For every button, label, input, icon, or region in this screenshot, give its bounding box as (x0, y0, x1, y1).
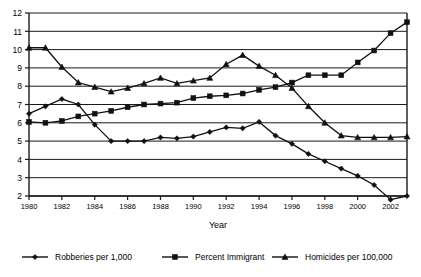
data-point (59, 119, 64, 124)
data-point (355, 60, 360, 65)
data-point (191, 134, 196, 139)
x-axis-tick-label: 1994 (251, 202, 268, 211)
data-point (26, 111, 31, 116)
series-0 (26, 96, 409, 202)
legend-item-2[interactable]: Homicides per 100,000 (272, 252, 393, 262)
data-point (240, 91, 245, 96)
x-axis-tick-label: 2000 (349, 202, 366, 211)
legend-label: Homicides per 100,000 (305, 252, 393, 262)
chart-container: 2345678910111219801982198419861988199019… (0, 0, 421, 277)
x-axis-tick-label: 1984 (86, 202, 103, 211)
data-point (142, 102, 147, 107)
data-point (59, 96, 64, 101)
legend-label: Robberies per 1,000 (55, 252, 132, 262)
data-point (388, 31, 393, 36)
y-axis-tick-label: 11 (13, 27, 22, 37)
y-axis-tick-label: 10 (13, 45, 23, 55)
data-point (240, 52, 246, 57)
data-point (256, 63, 262, 68)
line-chart: 2345678910111219801982198419861988199019… (0, 0, 421, 277)
data-point (207, 129, 212, 134)
legend-label: Percent Immigrant (195, 252, 265, 262)
x-axis-tick-label: 1982 (54, 202, 71, 211)
y-axis-tick-label: 7 (17, 100, 22, 110)
data-point (191, 96, 196, 101)
data-point (404, 193, 409, 198)
x-axis-tick-label: 1992 (218, 202, 235, 211)
y-axis-tick-label: 6 (17, 118, 22, 128)
data-point (207, 94, 212, 99)
data-point (141, 139, 146, 144)
data-point (339, 73, 344, 78)
data-point (27, 119, 32, 124)
data-point (158, 135, 163, 140)
data-point (76, 114, 81, 119)
series-2 (26, 45, 410, 140)
data-point (92, 111, 97, 116)
x-axis-tick-label: 1980 (21, 202, 38, 211)
data-point (257, 87, 262, 92)
y-axis-tick-label: 4 (17, 155, 22, 165)
legend-item-1[interactable]: Percent Immigrant (162, 252, 265, 262)
data-point (174, 136, 179, 141)
data-point (273, 72, 279, 77)
series-line-1 (29, 22, 407, 123)
x-axis-tick-label: 1988 (152, 202, 169, 211)
x-axis-tick-label: 1990 (185, 202, 202, 211)
data-point (290, 80, 295, 85)
y-axis-tick-label: 5 (17, 136, 22, 146)
data-point (322, 73, 327, 78)
series-line-2 (29, 48, 407, 138)
data-point (125, 105, 130, 110)
y-axis-tick-label: 2 (17, 191, 22, 201)
series-line-0 (29, 99, 407, 200)
x-axis-tick-label: 2002 (382, 202, 399, 211)
x-axis-title: Year (209, 220, 227, 230)
legend-marker-diamond-icon (32, 254, 37, 259)
data-point (372, 48, 377, 53)
legend-marker-square-icon (173, 255, 178, 260)
x-axis-tick-label: 1998 (316, 202, 333, 211)
data-point (240, 126, 245, 131)
y-axis-tick-label: 9 (17, 63, 22, 73)
y-axis-tick-label: 8 (17, 81, 22, 91)
data-point (405, 20, 410, 25)
data-point (339, 166, 344, 171)
data-point (109, 109, 114, 114)
y-axis-tick-label: 12 (13, 8, 23, 18)
x-axis-tick-label: 1996 (284, 202, 301, 211)
data-point (273, 85, 278, 90)
data-point (224, 125, 229, 130)
legend-item-0[interactable]: Robberies per 1,000 (22, 252, 132, 262)
data-point (223, 61, 229, 66)
data-point (224, 93, 229, 98)
data-point (175, 100, 180, 105)
y-axis-tick-label: 3 (17, 173, 22, 183)
x-axis-tick-label: 1986 (119, 202, 136, 211)
data-point (157, 75, 163, 80)
data-point (125, 139, 130, 144)
data-point (43, 120, 48, 125)
series-1 (27, 20, 410, 125)
data-point (158, 101, 163, 106)
data-point (306, 73, 311, 78)
